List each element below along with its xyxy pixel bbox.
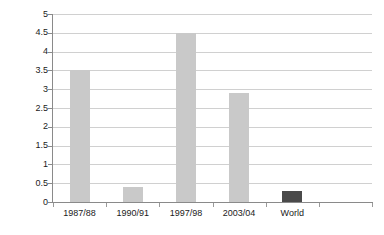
y-axis-tick	[48, 146, 52, 147]
y-axis-label: 1	[4, 160, 48, 169]
y-axis-labels: 5 4.5 4 3.5 3 2.5 2 1.5 1 0.5 0	[0, 0, 48, 235]
y-axis-label: 1.5	[4, 141, 48, 150]
x-axis-tick	[106, 203, 107, 207]
bar-slot	[106, 14, 159, 202]
y-axis-label: 5	[4, 10, 48, 19]
x-axis-tick	[319, 203, 320, 207]
y-axis-tick	[48, 183, 52, 184]
bar-chart: 5 4.5 4 3.5 3 2.5 2 1.5 1 0.5 0 1987/88 …	[0, 0, 384, 235]
bar-world	[282, 191, 302, 202]
x-axis-tick	[266, 203, 267, 207]
y-axis-tick	[48, 202, 52, 203]
y-axis-tick	[48, 33, 52, 34]
x-axis-tick	[159, 203, 160, 207]
x-axis-label-1987-88: 1987/88	[53, 208, 106, 218]
y-axis-label: 3	[4, 85, 48, 94]
bar-slot	[266, 14, 319, 202]
y-axis-tick	[48, 164, 52, 165]
y-axis-label: 0	[4, 198, 48, 207]
x-axis-tick	[53, 203, 54, 207]
y-axis-tick	[48, 89, 52, 90]
y-axis-tick	[48, 70, 52, 71]
bars-layer	[53, 14, 372, 202]
y-axis-label: 4.5	[4, 28, 48, 37]
y-axis-line	[52, 14, 53, 203]
x-axis-label-2003-04: 2003/04	[213, 208, 266, 218]
y-axis-tick	[48, 52, 52, 53]
y-axis-tick	[48, 127, 52, 128]
y-axis-label: 2	[4, 122, 48, 131]
y-axis-tick	[48, 14, 52, 15]
x-axis-tick	[213, 203, 214, 207]
bar-slot	[213, 14, 266, 202]
x-axis-tick	[372, 203, 373, 207]
y-axis-tick	[48, 108, 52, 109]
y-axis-label: 3.5	[4, 66, 48, 75]
bar-slot	[319, 14, 372, 202]
x-axis-label-1997-98: 1997/98	[159, 208, 212, 218]
bar-2003-04	[229, 93, 249, 202]
bar-1987-88	[70, 70, 90, 202]
y-axis-label: 0.5	[4, 179, 48, 188]
bar-slot	[159, 14, 212, 202]
y-axis-label: 2.5	[4, 104, 48, 113]
y-axis-label: 4	[4, 47, 48, 56]
x-axis-label-world: World	[266, 208, 319, 218]
bar-1990-91	[123, 187, 143, 202]
bar-slot	[53, 14, 106, 202]
x-axis-label-1990-91: 1990/91	[106, 208, 159, 218]
bar-1997-98	[176, 33, 196, 202]
